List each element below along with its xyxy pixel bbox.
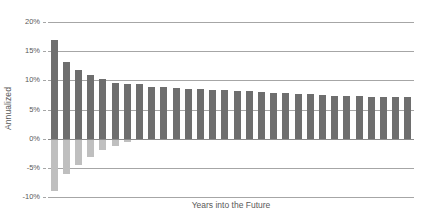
bar-segment-lower bbox=[63, 139, 70, 174]
bar-segment-upper bbox=[197, 89, 204, 139]
bar-group bbox=[148, 22, 155, 197]
bar-group bbox=[331, 22, 338, 197]
bar-segment-upper bbox=[258, 92, 265, 139]
y-tick-mark bbox=[43, 139, 46, 140]
bar-segment-upper bbox=[392, 97, 399, 138]
bar-group bbox=[124, 22, 131, 197]
y-tick-label: -10% bbox=[22, 193, 40, 201]
bar-segment-upper bbox=[307, 94, 314, 138]
gridline-zero-overlay bbox=[48, 139, 414, 140]
bar-group bbox=[404, 22, 411, 197]
bar-segment-upper bbox=[185, 89, 192, 139]
bar-group bbox=[87, 22, 94, 197]
y-tick-label: -5% bbox=[27, 164, 40, 172]
bar-segment-upper bbox=[124, 84, 131, 139]
bar-segment-upper bbox=[136, 84, 143, 138]
bar-segment-upper bbox=[112, 83, 119, 139]
bar-segment-upper bbox=[319, 95, 326, 139]
y-tick-mark bbox=[43, 197, 46, 198]
bar-group bbox=[392, 22, 399, 197]
bar-group bbox=[160, 22, 167, 197]
y-tick-label: 0% bbox=[29, 135, 40, 143]
y-tick-mark bbox=[43, 110, 46, 111]
y-tick-label: 15% bbox=[25, 47, 40, 55]
bar-group bbox=[209, 22, 216, 197]
bar-segment-upper bbox=[75, 70, 82, 139]
bar-group bbox=[75, 22, 82, 197]
bar-group bbox=[51, 22, 58, 197]
bar-group bbox=[221, 22, 228, 197]
bar-segment-upper bbox=[99, 79, 106, 139]
y-tick-label: 10% bbox=[25, 77, 40, 85]
bar-segment-upper bbox=[87, 75, 94, 139]
bar-group bbox=[112, 22, 119, 197]
bar-group bbox=[258, 22, 265, 197]
y-tick-mark bbox=[43, 22, 46, 23]
bar-segment-upper bbox=[63, 62, 70, 138]
x-axis-title: Years into the Future bbox=[48, 200, 414, 210]
bar-group bbox=[319, 22, 326, 197]
bar-segment-lower bbox=[87, 139, 94, 157]
bar-group bbox=[343, 22, 350, 197]
bar-segment-upper bbox=[331, 96, 338, 139]
bar-group bbox=[197, 22, 204, 197]
y-tick-mark bbox=[43, 168, 46, 169]
plot-area bbox=[48, 22, 414, 197]
bar-group bbox=[307, 22, 314, 197]
y-tick-label: 20% bbox=[25, 18, 40, 26]
bar-group bbox=[380, 22, 387, 197]
bar-segment-upper bbox=[160, 87, 167, 138]
bar-segment-upper bbox=[148, 87, 155, 139]
annualized-return-range-chart: Annualized 20%15%10%5%0%-5%-10% Years in… bbox=[0, 0, 431, 217]
bar-segment-lower bbox=[112, 139, 119, 146]
gridline-neg10 bbox=[48, 197, 414, 198]
bar-segment-upper bbox=[209, 90, 216, 139]
bar-segment-upper bbox=[295, 94, 302, 139]
bar-segment-upper bbox=[246, 91, 253, 138]
bar-group bbox=[282, 22, 289, 197]
bar-group bbox=[368, 22, 375, 197]
bar-segment-upper bbox=[282, 93, 289, 139]
bar-segment-lower bbox=[51, 139, 58, 192]
bar-segment-upper bbox=[270, 93, 277, 139]
bar-group bbox=[185, 22, 192, 197]
bar-segment-upper bbox=[368, 97, 375, 139]
y-tick-mark bbox=[43, 51, 46, 52]
bar-segment-upper bbox=[221, 90, 228, 138]
bar-segment-lower bbox=[75, 139, 82, 165]
bar-segment-lower bbox=[99, 139, 106, 151]
y-axis-tick-labels: 20%15%10%5%0%-5%-10% bbox=[16, 0, 46, 217]
bar-group bbox=[136, 22, 143, 197]
bar-group bbox=[63, 22, 70, 197]
bar-group bbox=[99, 22, 106, 197]
y-tick-label: 5% bbox=[29, 106, 40, 114]
bar-group bbox=[173, 22, 180, 197]
bar-segment-upper bbox=[356, 96, 363, 139]
bar-segment-upper bbox=[234, 91, 241, 139]
bar-segment-upper bbox=[404, 97, 411, 138]
bar-group bbox=[295, 22, 302, 197]
y-tick-mark bbox=[43, 80, 46, 81]
bar-segment-upper bbox=[343, 96, 350, 139]
bar-segment-upper bbox=[51, 40, 58, 139]
bar-segment-upper bbox=[173, 88, 180, 139]
bar-group bbox=[270, 22, 277, 197]
bar-group bbox=[234, 22, 241, 197]
bar-segment-upper bbox=[380, 97, 387, 139]
bar-group bbox=[356, 22, 363, 197]
bar-group bbox=[246, 22, 253, 197]
y-axis-title: Annualized bbox=[0, 0, 16, 217]
